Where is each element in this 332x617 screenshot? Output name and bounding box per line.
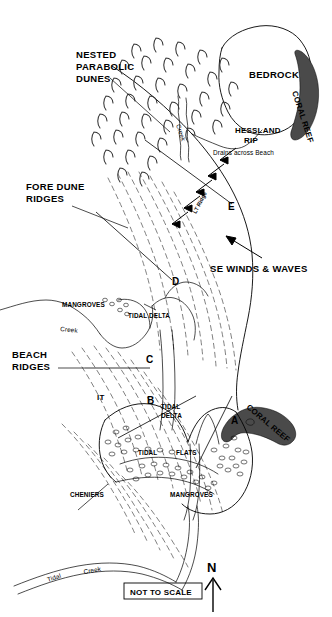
north-arrow: N	[205, 560, 221, 612]
label-mangroves-upper: MANGROVES	[62, 301, 105, 308]
label-se-winds-waves: SE WINDS & WAVES	[210, 263, 308, 274]
label-hessland-rip-line1: HESSLAND	[235, 126, 281, 135]
se-wind-wave-arrows	[172, 148, 262, 258]
label-fore-dune-ridges-line1: FORE DUNE	[26, 181, 85, 192]
label-tidal-creek-word2: Creek	[83, 565, 102, 575]
transect-label-d: D	[172, 276, 179, 287]
label-cheniers: CHENIERS	[70, 491, 104, 498]
label-tidal-delta-upper: TIDAL DELTA	[128, 312, 170, 319]
wave-arrow-3	[172, 212, 188, 228]
tidal-creek	[14, 506, 199, 594]
transect-label-b: B	[147, 395, 154, 406]
transect-label-a: A	[231, 415, 238, 426]
label-creek-upper: Creek	[60, 325, 79, 334]
coastal-geomorphology-diagram: NESTED PARABOLIC DUNES FORE DUNE RIDGES …	[0, 0, 332, 617]
label-leader-lines	[58, 78, 170, 510]
scale-note-box: NOT TO SCALE	[124, 583, 202, 599]
label-nested-parabolic-dunes-line3: DUNES	[76, 73, 111, 84]
label-tidal-delta-lower-line1: TIDAL	[161, 403, 180, 410]
label-hessland-rip-line2: RIP	[244, 136, 258, 145]
label-tidal-flats-word1: TIDAL	[138, 449, 157, 456]
label-tidal-delta-lower-line2: DELTA	[161, 412, 182, 419]
label-beach-ridges-line2: RIDGES	[12, 361, 50, 372]
transect-label-e: E	[228, 201, 235, 212]
label-mangroves-lower: MANGROVES	[170, 491, 213, 498]
label-lt-ridge: LT Ridge	[192, 191, 208, 215]
label-nested-parabolic-dunes-line1: NESTED	[76, 49, 116, 60]
label-bedrock: BEDROCK	[249, 69, 299, 80]
label-fore-dune-ridges-line2: RIDGES	[26, 193, 64, 204]
label-drains-across-beach: Drains across Beach	[213, 149, 274, 156]
north-arrow-label: N	[207, 560, 216, 575]
label-nested-parabolic-dunes-line2: PARABOLIC	[76, 61, 134, 72]
transect-lines	[85, 140, 232, 468]
scale-note-text: NOT TO SCALE	[130, 588, 192, 597]
leader-fore-dune	[72, 206, 128, 228]
label-creek-bedrock: Creek	[175, 123, 187, 143]
wind-arrow-large	[226, 236, 262, 258]
label-tidal-flats-word2: FLATS	[176, 449, 197, 456]
transect-line-d	[96, 212, 172, 280]
label-beach-ridges-line1: BEACH	[12, 349, 47, 360]
transect-label-c: C	[146, 354, 153, 365]
label-it-marker: IT	[97, 393, 105, 402]
